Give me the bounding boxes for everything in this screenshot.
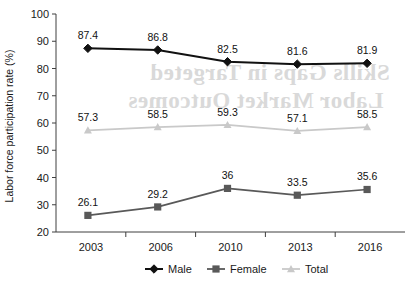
data-point-marker	[293, 60, 301, 68]
legend-item-male[interactable]: Male	[145, 263, 192, 275]
data-point-marker	[223, 57, 231, 65]
data-point-marker	[364, 186, 371, 193]
chart-legend: MaleFemaleTotal	[145, 263, 328, 275]
data-label: 57.1	[287, 112, 308, 124]
legend-label: Female	[230, 263, 267, 275]
y-tick-label: 70	[37, 90, 49, 102]
y-tick-label: 50	[37, 144, 49, 156]
data-label: 57.3	[78, 111, 99, 123]
y-tick-label: 20	[37, 226, 49, 238]
y-tick-label: 90	[37, 35, 49, 47]
data-point-marker	[84, 212, 91, 219]
legend-label: Total	[305, 263, 328, 275]
data-point-marker	[84, 44, 92, 52]
series-female	[84, 185, 370, 219]
legend-item-female[interactable]: Female	[207, 263, 267, 275]
y-tick-label: 80	[37, 63, 49, 75]
series-line	[88, 188, 367, 215]
data-label: 29.2	[147, 188, 168, 200]
line-chart: Skills Gaps in Targeted Labor Market Out…	[0, 0, 419, 282]
data-point-marker	[154, 46, 162, 54]
chart-canvas: Labor force participation rate (%) 20304…	[0, 0, 419, 282]
x-tick-label: 2016	[358, 241, 382, 253]
data-label: 59.3	[217, 106, 238, 118]
data-label: 58.5	[147, 108, 168, 120]
x-axis-tick-labels: 20032006201020132016	[79, 241, 383, 253]
legend-label: Male	[168, 263, 192, 275]
data-label: 35.6	[357, 170, 378, 182]
x-tick-label: 2010	[218, 241, 242, 253]
data-point-marker	[224, 185, 231, 192]
x-tick-label: 2006	[148, 241, 172, 253]
data-point-marker	[212, 265, 219, 272]
data-label: 26.1	[78, 196, 99, 208]
data-label: 82.5	[217, 43, 238, 55]
data-point-marker	[150, 265, 158, 273]
data-label: 36	[222, 169, 234, 181]
data-label: 81.6	[287, 45, 308, 57]
data-label: 81.9	[357, 44, 378, 56]
y-axis-ticks: 2030405060708090100	[31, 8, 56, 238]
data-point-marker	[363, 59, 371, 67]
data-label-layer: 87.486.882.581.681.926.129.23633.535.657…	[78, 29, 378, 208]
y-tick-label: 60	[37, 117, 49, 129]
series-layer	[84, 44, 372, 219]
x-tick-label: 2013	[288, 241, 312, 253]
y-axis-title: Labor force participation rate (%)	[3, 50, 15, 203]
data-label: 86.8	[147, 31, 168, 43]
series-total	[84, 121, 371, 134]
x-tick-label: 2003	[79, 241, 103, 253]
y-tick-label: 40	[37, 172, 49, 184]
x-axis-ticks	[126, 232, 335, 237]
data-label: 58.5	[357, 108, 378, 120]
y-tick-label: 100	[31, 8, 49, 20]
legend-item-total[interactable]: Total	[282, 263, 328, 275]
data-label: 87.4	[78, 29, 99, 41]
data-point-marker	[294, 192, 301, 199]
y-tick-label: 30	[37, 199, 49, 211]
data-point-marker	[154, 203, 161, 210]
data-label: 33.5	[287, 176, 308, 188]
